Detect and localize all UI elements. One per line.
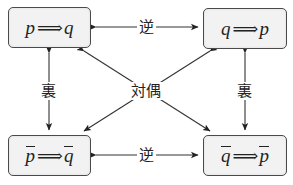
var-right: p <box>259 18 269 40</box>
implies-symbol: ⟹ <box>37 145 62 167</box>
label-converse-top: 逆 <box>137 18 156 36</box>
statement-box-converse: q ⟹ p <box>203 8 287 49</box>
label-converse-bottom: 逆 <box>137 146 156 164</box>
implies-symbol: ⟹ <box>233 18 258 40</box>
var-right: q <box>64 17 74 39</box>
implies-symbol: ⟹ <box>233 145 258 167</box>
statement-box-inverse: p ⟹ q <box>8 135 91 176</box>
label-inverse-left: 裏 <box>39 82 58 100</box>
var-left-negated: p <box>26 145 36 167</box>
var-left: p <box>26 17 36 39</box>
var-right-negated: p <box>259 145 269 167</box>
label-inverse-right: 裏 <box>235 82 254 100</box>
var-left-negated: q <box>221 145 231 167</box>
implies-symbol: ⟹ <box>37 17 62 39</box>
statement-box-contrapositive: q ⟹ p <box>203 135 287 176</box>
var-right-negated: q <box>64 145 74 167</box>
statement-box-original: p ⟹ q <box>8 7 91 48</box>
label-contrapositive-center: 対偶 <box>129 82 163 100</box>
var-left: q <box>221 18 231 40</box>
